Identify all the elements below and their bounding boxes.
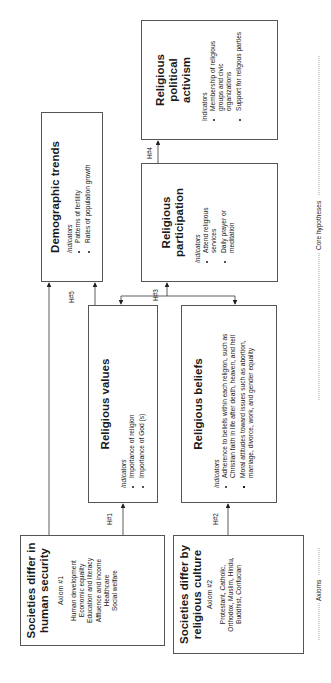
- indicator-item: Attend religious services: [202, 183, 218, 253]
- indicator-item: Membership of religious groups and civic…: [209, 23, 233, 111]
- indicators-label: Indicators: [66, 119, 73, 253]
- religious-values-box: Religious values Indicators Importance o…: [88, 305, 158, 503]
- religious-participation-box: Religious participation Indicators Atten…: [141, 163, 278, 282]
- axiom-1-box: Societies differ in human security Axiom…: [20, 535, 165, 646]
- indicator-item: Adherence to beliefs within each religio…: [221, 328, 237, 478]
- demographic-trends-indicators: Patterns of fertility Rates of populatio…: [74, 119, 92, 253]
- indicators-label: Indicators: [201, 27, 208, 121]
- axiom-2-items: Protestant, Catholic, Orthodox, Muslim, …: [219, 542, 244, 647]
- indicator-item: Daily prayer or meditation: [220, 183, 236, 253]
- hypothesis-label-h2: H#2: [212, 513, 219, 525]
- indicator-item: Rates of population growth: [84, 119, 92, 243]
- hypothesis-label-h5: H#5: [68, 291, 75, 303]
- axiom-2-box: Societies differ by religious culture Ax…: [173, 535, 304, 654]
- religious-values-indicators: Importance of religion Importance of God…: [128, 312, 146, 488]
- religious-political-activism-title: Religious political activism: [154, 27, 193, 133]
- axiom-1-item: Human development: [70, 542, 78, 639]
- religious-political-activism-indicators: Membership of religious groups and civic…: [209, 23, 243, 121]
- indicator-item: Importance of religion: [128, 312, 136, 478]
- indicators-label: Indicators: [120, 312, 127, 488]
- axiom-1-item: Healthcare: [103, 542, 111, 639]
- hypothesis-label-h1: H#1: [106, 513, 113, 525]
- religious-beliefs-title: Religious beliefs: [192, 312, 205, 496]
- indicators-label: Indicators: [194, 170, 201, 263]
- demographic-trends-box: Demographic trends Indicators Patterns o…: [41, 112, 103, 282]
- hypothesis-label-h3: H#3: [152, 289, 159, 301]
- axiom-1-item: Education and literacy: [86, 542, 94, 639]
- axiom-1-subtitle: Axiom #1: [57, 542, 64, 639]
- axiom-2-subtitle: Axiom #2: [206, 542, 213, 647]
- religious-beliefs-box: Religious beliefs Indicators Adherence t…: [181, 305, 277, 503]
- axiom-1-item: Affluence and income: [95, 542, 103, 639]
- diagram-canvas: Societies differ in human security Axiom…: [0, 0, 331, 683]
- axiom-1-item: Social welfare: [111, 542, 119, 639]
- religious-participation-title: Religious participation: [160, 170, 186, 275]
- indicator-item: Importance of God (s): [138, 312, 146, 478]
- indicator-item: Moral attitudes toward issues such as ab…: [239, 328, 255, 478]
- section-label-axioms: Axioms: [315, 580, 322, 601]
- axiom-2-title: Societies differ by religious culture: [178, 542, 204, 647]
- section-label-core-hypotheses: Core hypotheses: [315, 201, 322, 250]
- axiom-1-items: Human development Economic equality Educ…: [70, 542, 119, 639]
- axiom-1-item: Economic equality: [78, 542, 86, 639]
- hypothesis-label-h4: H#4: [146, 147, 153, 159]
- demographic-trends-title: Demographic trends: [49, 119, 62, 275]
- indicator-item: Support for religous parties: [235, 23, 243, 111]
- axiom-1-title: Societies differ in human security: [25, 542, 51, 639]
- religious-beliefs-indicators: Adherence to beliefs within each religio…: [221, 328, 255, 488]
- indicators-label: Indicators: [213, 312, 220, 488]
- religious-values-title: Religious values: [99, 312, 112, 496]
- religious-participation-indicators: Attend religious services Daily prayer o…: [202, 183, 236, 263]
- religious-political-activism-box: Religious political activism Indicators …: [141, 20, 278, 140]
- indicator-item: Patterns of fertility: [74, 119, 82, 243]
